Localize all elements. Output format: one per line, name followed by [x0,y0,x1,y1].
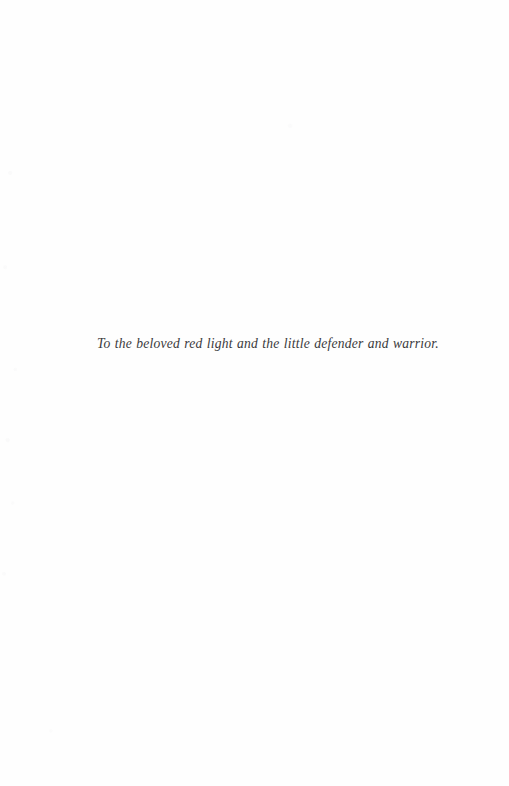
book-page: To the beloved red light and the little … [0,0,509,786]
paper-scan-grain [0,0,509,786]
dedication-text: To the beloved red light and the little … [97,334,409,353]
dedication-block: To the beloved red light and the little … [97,334,409,353]
